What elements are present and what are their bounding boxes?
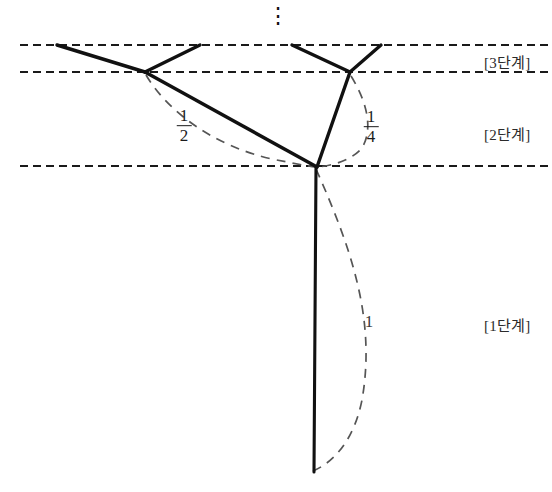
stage-diagram-figure: ⋮ [3단계] [2단계] [1단계] 1 2 1 4 1 <box>0 0 552 492</box>
fraction-denominator: 4 <box>364 128 379 146</box>
edge-right-node-to-leaf-3 <box>292 45 350 72</box>
tree-edges-group <box>57 45 381 472</box>
edge-label-one-half: 1 2 <box>177 107 192 145</box>
edge-label-one: 1 <box>365 312 374 332</box>
edge-left-node-to-leaf-2 <box>145 45 200 72</box>
edge-label-one-quarter: 1 4 <box>364 108 379 146</box>
fraction-numerator: 1 <box>177 107 192 126</box>
fraction-numerator: 1 <box>364 108 379 127</box>
vertical-ellipsis-icon: ⋮ <box>267 3 289 29</box>
stage-label-1: [1단계] <box>484 314 531 335</box>
edge-left-node-to-leaf-1 <box>57 45 145 72</box>
edge-right-node-to-leaf-4 <box>350 45 381 72</box>
stage-label-2: [2단계] <box>484 123 531 144</box>
edge-trunk <box>314 167 316 472</box>
edge-root-to-left-node <box>145 72 317 167</box>
fraction-denominator: 2 <box>177 127 192 145</box>
diagram-canvas <box>0 0 552 492</box>
stage-label-3: [3단계] <box>484 51 531 72</box>
edge-root-to-right-node <box>317 72 350 167</box>
arc-trunk-length-icon <box>313 169 366 471</box>
